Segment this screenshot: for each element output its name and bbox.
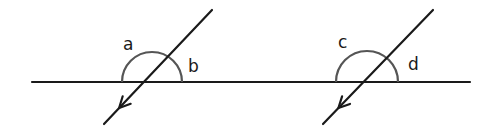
figure-right: c d [323,10,433,124]
angle-arc-left [122,52,182,82]
angle-label-c: c [338,32,347,52]
diagram-svg: a b c d [0,0,491,128]
angle-label-b: b [188,56,199,76]
figure-left: a b [104,10,212,124]
angle-diagram: a b c d [0,0,491,128]
angle-label-a: a [123,34,133,54]
angle-label-d: d [408,54,419,74]
